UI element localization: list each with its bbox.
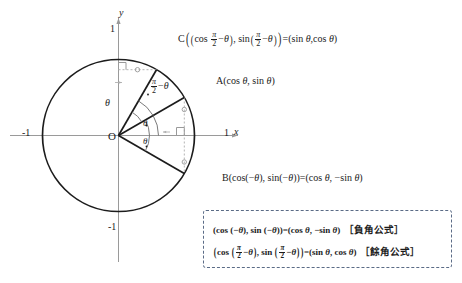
origin-label: O	[108, 131, 116, 142]
x-axis-tick-label-positive: 1	[224, 128, 229, 138]
point-label-B: B(cos(−θ), sin(−θ))=(cos θ, −sin θ)	[222, 173, 363, 183]
angle-label-theta-second: θ	[143, 137, 147, 146]
y-axis-unit-tick-arrow	[119, 81, 122, 84]
right-angle-marker-y-axis	[119, 63, 127, 70]
formula-tag-complementary-angle: ［餘角公式］	[360, 246, 420, 257]
y-axis-tick-label-top: 1	[110, 24, 115, 34]
x-axis-label: x	[234, 127, 238, 137]
formula-row-negative-angle: (cos (−θ), sin (−θ))=(cos θ, −sin θ)［負角公…	[213, 222, 404, 236]
angle-label-theta-first: θ	[143, 119, 147, 128]
point-label-A: A(cos θ, sin θ)	[216, 76, 275, 86]
y-axis-arrow	[116, 18, 120, 24]
x-axis-unit-tick-arrow	[163, 131, 166, 134]
angle-label-half-pi-minus-theta: π2−θ	[150, 78, 169, 95]
angle-arc-theta-upper	[132, 112, 142, 122]
angle-vertex-dot-3	[147, 94, 149, 96]
y-axis-tick-label-bottom: -1	[108, 222, 116, 232]
radius-OA	[119, 98, 185, 136]
point-label-C: C((cos π2−θ), sin(π2−θ))=(sin θ,cos θ)	[178, 31, 337, 48]
right-angle-marker-x-axis	[177, 128, 185, 136]
formula-row-complementary-angle: (cos (π2−θ), sin (π2−θ))=(sin θ, cos θ)［…	[213, 244, 420, 261]
formula-tag-negative-angle: ［負角公式］	[344, 224, 404, 235]
radius-OB	[119, 136, 185, 174]
angle-label-theta-upper: θ	[105, 98, 110, 108]
x-axis-tick-label-negative: -1	[22, 128, 30, 138]
diagram-canvas: C((cos π2−θ), sin(π2−θ))=(sin θ,cos θ) A…	[0, 0, 462, 283]
y-axis-label: y	[119, 8, 123, 18]
formula-box: (cos (−θ), sin (−θ))=(cos θ, −sin θ)［負角公…	[203, 210, 452, 268]
